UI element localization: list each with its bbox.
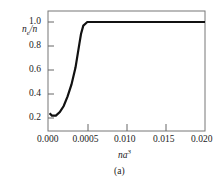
x-tick-label: 0.000 [37,134,58,144]
data-series-line [50,22,205,116]
y-axis-ticks [48,22,54,118]
y-tick-label: 0.8 [29,40,41,50]
x-label-sup: 3 [128,148,132,156]
x-tick-label: 0.010 [114,134,135,144]
x-tick-label: 0.020 [191,134,212,144]
y-tick-label: 0.4 [29,88,41,98]
x-tick-label: 0.0005 [72,134,98,144]
x-axis-ticks [88,124,166,131]
y-tick-label: 0.2 [29,112,41,122]
caption-text: (a) [114,166,125,176]
figure-caption: (a) [114,166,125,176]
x-tick-label: 0.015 [153,134,174,144]
y-tick-label: 1.0 [29,16,41,26]
x-label-main: na [118,150,128,160]
x-axis-label: na3 [118,148,131,160]
plot-frame [48,11,205,131]
y-tick-label: 0.6 [29,64,41,74]
